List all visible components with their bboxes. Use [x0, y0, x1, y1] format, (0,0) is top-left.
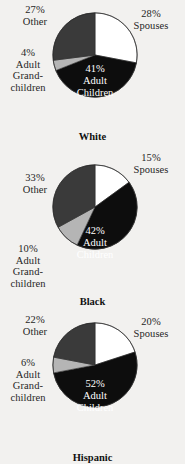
pie-chart-white: 28% Spouses 27% Other 4% Adult Grand- ch… — [0, 0, 185, 148]
label-other-hispanic: 22% Other — [6, 314, 64, 337]
label-grandchildren-pct-white: 4% — [0, 47, 56, 59]
label-other-name-white: Other — [6, 16, 64, 28]
label-adult-children-pct-hispanic: 52% — [58, 378, 132, 390]
label-spouses-name-black: Spouses — [118, 164, 184, 176]
label-grandchildren-name3-black: children — [0, 278, 56, 290]
label-grandchildren-name2-black: Grand- — [0, 266, 56, 278]
label-other-name-black: Other — [6, 184, 64, 196]
label-other-pct-black: 33% — [6, 172, 64, 184]
label-spouses-pct-hispanic: 20% — [118, 316, 184, 328]
label-adult-children-name2-hispanic: Children — [58, 402, 132, 414]
label-spouses-pct-black: 15% — [118, 152, 184, 164]
label-adult-children-white: 41% Adult Children — [58, 63, 132, 99]
label-grandchildren-name1-black: Adult — [0, 255, 56, 267]
label-spouses-black: 15% Spouses — [118, 152, 184, 175]
label-adult-children-name1-black: Adult — [58, 237, 132, 249]
label-adult-children-name1-white: Adult — [58, 75, 132, 87]
label-grandchildren-name2-hispanic: Grand- — [0, 380, 56, 392]
label-grandchildren-white: 4% Adult Grand- children — [0, 47, 56, 93]
pie-chart-hispanic: 20% Spouses 22% Other 6% Adult Grand- ch… — [0, 300, 185, 456]
label-grandchildren-name3-hispanic: children — [0, 392, 56, 404]
label-spouses-name-white: Spouses — [118, 20, 184, 32]
label-other-white: 27% Other — [6, 4, 64, 27]
label-grandchildren-name1-white: Adult — [0, 59, 56, 71]
label-adult-children-name1-hispanic: Adult — [58, 390, 132, 402]
label-grandchildren-pct-hispanic: 6% — [0, 357, 56, 369]
label-adult-children-pct-black: 42% — [58, 225, 132, 237]
label-spouses-name-hispanic: Spouses — [118, 328, 184, 340]
label-grandchildren-name3-white: children — [0, 82, 56, 94]
label-adult-children-name2-white: Children — [58, 87, 132, 99]
chart-title-hispanic: Hispanic — [0, 452, 185, 464]
label-other-black: 33% Other — [6, 172, 64, 195]
label-other-pct-white: 27% — [6, 4, 64, 16]
label-spouses-white: 28% Spouses — [118, 8, 184, 31]
label-grandchildren-black: 10% Adult Grand- children — [0, 243, 56, 289]
label-spouses-pct-white: 28% — [118, 8, 184, 20]
label-adult-children-hispanic: 52% Adult Children — [58, 378, 132, 414]
label-grandchildren-pct-black: 10% — [0, 243, 56, 255]
label-grandchildren-hispanic: 6% Adult Grand- children — [0, 357, 56, 403]
label-adult-children-pct-white: 41% — [58, 63, 132, 75]
chart-title-white: White — [0, 131, 185, 143]
pie-chart-black: 15% Spouses 33% Other 10% Adult Grand- c… — [0, 148, 185, 300]
label-adult-children-black: 42% Adult Children — [58, 225, 132, 261]
label-spouses-hispanic: 20% Spouses — [118, 316, 184, 339]
label-grandchildren-name2-white: Grand- — [0, 70, 56, 82]
label-adult-children-name2-black: Children — [58, 249, 132, 261]
label-other-name-hispanic: Other — [6, 326, 64, 338]
label-grandchildren-name1-hispanic: Adult — [0, 369, 56, 381]
label-other-pct-hispanic: 22% — [6, 314, 64, 326]
